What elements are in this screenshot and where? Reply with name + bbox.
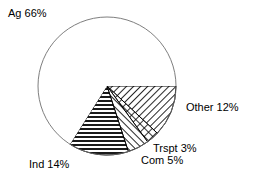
pie-slice-label-trspt: Trspt 3% — [153, 142, 197, 154]
pie-chart-canvas — [0, 0, 256, 181]
pie-slice-label-com: Com 5% — [141, 154, 183, 166]
pie-slice-label-other: Other 12% — [186, 101, 239, 113]
pie-slice-label-ag: Ag 66% — [8, 7, 47, 19]
pie-slice-label-ind: Ind 14% — [29, 158, 69, 170]
pie-chart: Ag 66% Other 12% Trspt 3% Com 5% Ind 14% — [0, 0, 256, 181]
